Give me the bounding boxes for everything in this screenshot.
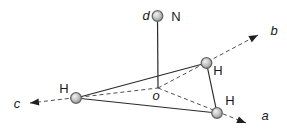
origin-label: o	[152, 88, 159, 103]
nitrogen-label: N	[171, 9, 180, 24]
edge-hleft-hupper	[76, 63, 207, 98]
axis-a-arrowhead-icon	[236, 116, 246, 123]
hydrogen-upper-right-label: H	[213, 63, 222, 78]
axis-b-label: b	[270, 23, 277, 38]
hydrogen-lower-right-label: H	[225, 93, 234, 108]
axis-a-label: a	[261, 108, 268, 123]
hydrogen-lower-right-atom	[212, 108, 223, 119]
axis-c-arrowhead-icon	[30, 99, 39, 106]
axis-c-line	[30, 88, 158, 103]
axis-d-line	[158, 16, 159, 88]
axis-c-label: c	[14, 96, 21, 111]
nitrogen-atom	[152, 11, 163, 22]
diagram-svg: N H H H a b c d o	[0, 0, 287, 133]
hydrogen-upper-right-atom	[201, 58, 212, 69]
hydrogen-left-label: H	[59, 81, 68, 96]
hydrogen-left-atom	[71, 93, 82, 104]
edge-hleft-hlower	[76, 98, 217, 113]
axis-d-label: d	[142, 8, 150, 23]
axis-b-arrowhead-icon	[248, 35, 258, 42]
molecule-diagram: N H H H a b c d o	[0, 0, 287, 133]
